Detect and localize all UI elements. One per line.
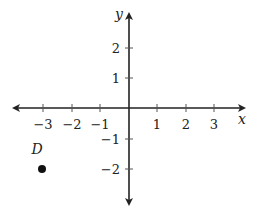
y-tick-label: −1 — [101, 132, 120, 147]
x-axis-label: x — [238, 111, 246, 127]
point-d — [38, 165, 46, 173]
x-tick-label: −3 — [33, 117, 52, 132]
y-tick-label: 2 — [112, 41, 120, 56]
x-tick-label: 2 — [182, 117, 190, 132]
y-tick-label: 1 — [112, 71, 120, 86]
x-tick-label: −1 — [90, 117, 109, 132]
x-tick-label: −2 — [62, 117, 81, 132]
x-tick-label: 1 — [153, 117, 161, 132]
y-axis-label: y — [114, 6, 124, 22]
y-tick-label: −2 — [101, 162, 120, 177]
coordinate-plane: −3 −2 −1 1 2 3 2 1 −1 −2 x y D — [0, 0, 260, 213]
point-d-label: D — [30, 141, 42, 157]
x-tick-label: 3 — [210, 117, 218, 132]
